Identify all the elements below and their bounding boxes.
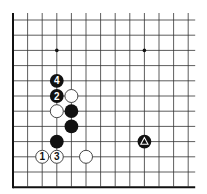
black-stone-disc [65,120,79,134]
star-point [55,49,59,53]
black-stone [50,135,64,149]
white-stone [80,150,93,163]
star-point [143,49,147,53]
white-stone-disc [50,105,63,118]
go-board: 4213 [0,0,207,194]
white-stone: 1 [36,150,49,163]
white-stone-disc [80,150,93,163]
black-stone [65,104,79,118]
stones: 4213 [36,74,152,163]
white-stone: 3 [50,150,63,163]
move-number-label: 4 [54,75,60,86]
move-number-label: 3 [54,151,60,162]
black-stone: 2 [50,89,64,103]
black-stone-disc [50,135,64,149]
black-stone: 4 [50,74,64,88]
black-stone [138,135,152,149]
move-number-label: 2 [54,91,60,102]
white-stone-disc [65,90,78,103]
white-stone [50,105,63,118]
black-stone-disc [65,104,79,118]
white-stone [65,90,78,103]
black-stone [65,120,79,134]
move-number-label: 1 [39,151,45,162]
